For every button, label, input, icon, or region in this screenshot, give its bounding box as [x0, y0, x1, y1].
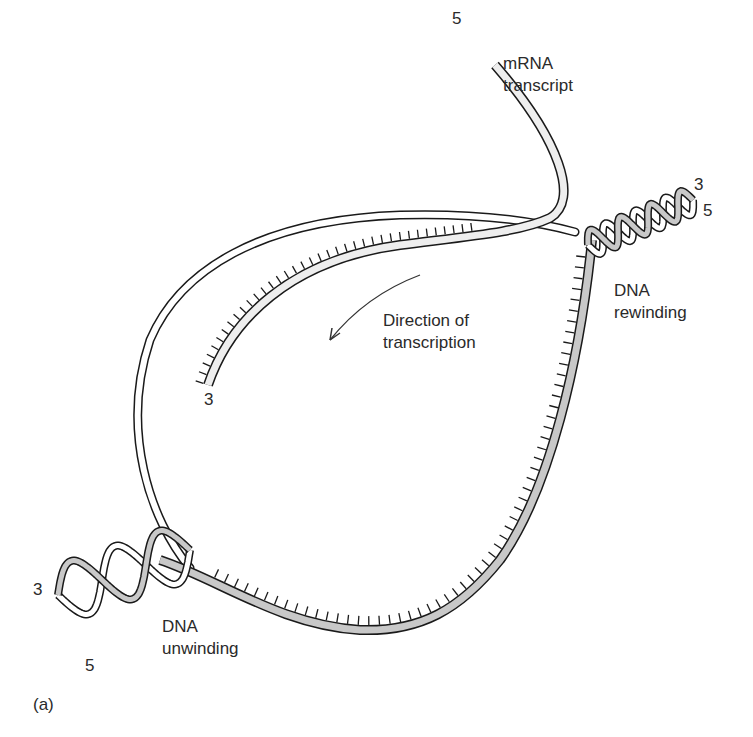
mrna-label-line1: mRNA	[503, 54, 554, 73]
panel-label: (a)	[33, 695, 54, 714]
base-tick	[417, 230, 418, 238]
base-tick	[327, 250, 330, 257]
helix-strand-a-outline	[58, 546, 190, 615]
base-tick	[293, 266, 297, 273]
base-tick	[574, 278, 583, 279]
base-tick	[452, 588, 458, 595]
base-tick	[444, 594, 449, 601]
base-tick	[309, 257, 312, 264]
rewinding-helix	[588, 191, 693, 254]
base-tick	[435, 228, 436, 236]
base-tick	[244, 583, 248, 591]
base-tick	[261, 288, 266, 294]
mrna-5prime-label: 5	[452, 9, 461, 28]
template-strand	[160, 240, 592, 630]
base-tick	[234, 314, 240, 319]
base-tick	[569, 310, 578, 311]
base-tick	[372, 237, 374, 245]
base-tick	[199, 372, 206, 375]
base-tick	[453, 225, 454, 233]
base-tick	[505, 526, 513, 530]
base-tick	[276, 276, 280, 283]
base-tick	[215, 569, 219, 577]
base-tick	[426, 229, 427, 237]
base-tick	[537, 447, 546, 450]
unwinding-label-line1: DNA	[162, 617, 199, 636]
base-tick	[399, 613, 401, 622]
base-tick	[500, 535, 508, 540]
base-tick	[348, 615, 349, 624]
unwinding-label-line2: unwinding	[162, 639, 239, 658]
base-tick	[514, 507, 522, 511]
base-tick	[227, 322, 233, 327]
base-tick	[254, 588, 258, 596]
base-tick	[563, 342, 572, 344]
base-tick	[222, 330, 229, 335]
base-tick	[254, 294, 259, 300]
base-tick	[240, 307, 246, 312]
base-tick	[235, 579, 239, 587]
base-tick	[285, 600, 288, 608]
base-tick	[471, 223, 472, 231]
base-tick	[203, 363, 210, 366]
base-tick	[225, 574, 229, 582]
base-tick	[475, 568, 482, 574]
base-tick	[571, 299, 580, 300]
base-tick	[444, 226, 445, 234]
base-tick	[418, 608, 421, 616]
base-tick	[363, 239, 365, 247]
base-tick	[379, 616, 380, 625]
base-tick	[284, 271, 288, 278]
base-tick	[247, 300, 253, 306]
unwinding-3prime-label: 3	[33, 580, 42, 599]
base-tick	[408, 231, 409, 239]
base-tick	[269, 282, 274, 288]
base-tick	[523, 487, 531, 490]
base-tick	[305, 606, 308, 615]
base-tick	[389, 615, 390, 624]
base-tick	[427, 604, 431, 612]
base-tick	[381, 235, 382, 243]
base-tick	[482, 560, 489, 566]
base-tick	[547, 416, 556, 418]
base-tick	[554, 384, 563, 386]
base-tick	[196, 381, 204, 384]
helix-strand-b	[588, 191, 693, 247]
base-tick	[211, 346, 218, 350]
base-tick	[567, 321, 576, 322]
base-tick	[572, 288, 581, 289]
mrna-strand	[196, 65, 564, 385]
base-tick	[295, 603, 298, 612]
base-tick	[358, 616, 359, 625]
base-tick	[264, 592, 267, 600]
base-tick	[460, 582, 466, 589]
direction-label-line1: Direction of	[383, 311, 469, 330]
base-tick	[345, 244, 347, 252]
base-tick	[275, 596, 278, 604]
base-tick	[527, 477, 535, 480]
base-tick	[316, 609, 318, 618]
base-tick	[216, 338, 223, 342]
base-tick	[534, 457, 543, 460]
unwinding-5prime-label: 5	[85, 656, 94, 675]
base-tick	[541, 437, 550, 440]
rewinding-label-line1: DNA	[614, 281, 651, 300]
base-tick	[565, 331, 574, 333]
base-tick	[519, 497, 527, 501]
base-tick	[575, 267, 584, 268]
base-tick	[326, 612, 328, 621]
base-tick	[530, 467, 538, 470]
base-tick	[494, 544, 502, 549]
rewinding-3prime-label: 3	[694, 175, 703, 194]
mrna-3prime-label: 3	[204, 390, 213, 409]
base-tick	[409, 611, 411, 620]
base-tick	[576, 256, 585, 257]
base-tick	[544, 426, 553, 428]
rewinding-5prime-label: 5	[703, 201, 712, 220]
base-tick	[549, 405, 558, 407]
base-tick	[436, 600, 440, 608]
base-tick	[561, 353, 570, 355]
base-tick	[557, 374, 566, 376]
base-tick	[301, 262, 305, 269]
base-tick	[207, 354, 214, 358]
